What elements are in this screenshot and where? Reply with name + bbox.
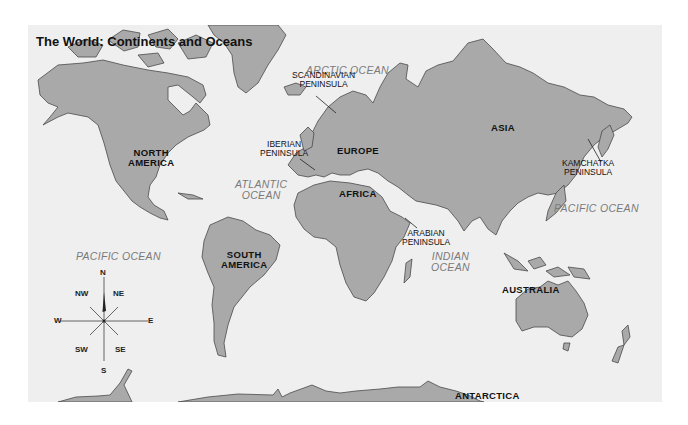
label-atlantic-ocean: ATLANTIC OCEAN [235, 179, 287, 201]
new-zealand-shape [612, 325, 630, 363]
label-asia: ASIA [491, 123, 515, 133]
label-antarctica: ANTARCTICA [455, 391, 520, 401]
label-kamchatka-peninsula: KAMCHATKA PENINSULA [562, 159, 614, 177]
africa-shape [294, 181, 410, 301]
antarctica-shape [58, 369, 484, 402]
label-pacific-ocean-east: PACIFIC OCEAN [554, 203, 639, 214]
compass-rose [60, 277, 148, 361]
compass-label-ne: NE [113, 289, 124, 298]
tasmania-shape [563, 343, 570, 351]
label-south-america-line2: AMERICA [221, 260, 267, 270]
label-pacific-ocean-west: PACIFIC OCEAN [76, 251, 161, 262]
label-arabian-peninsula: ARABIAN PENINSULA [402, 229, 450, 247]
label-indian-line2: OCEAN [431, 262, 470, 273]
compass-label-s: S [101, 366, 106, 375]
compass-label-nw: NW [75, 289, 88, 298]
label-scandinavian-peninsula: SCANDINAVIAN PENINSULA [292, 71, 355, 89]
caribbean-shape [178, 193, 203, 199]
compass-label-e: E [148, 316, 153, 325]
compass-label-w: W [54, 316, 62, 325]
label-atlantic-line2: OCEAN [235, 190, 287, 201]
label-australia: AUSTRALIA [502, 285, 560, 295]
label-north-america-line2: AMERICA [128, 158, 174, 168]
map-title: The World: Continents and Oceans [36, 34, 252, 49]
label-kamchatka-line2: PENINSULA [562, 168, 614, 177]
indonesia-shape [504, 253, 590, 279]
label-indian-ocean: INDIAN OCEAN [431, 251, 470, 273]
label-europe: EUROPE [337, 146, 379, 156]
label-africa: AFRICA [339, 189, 377, 199]
label-arabian-line2: PENINSULA [402, 238, 450, 247]
label-north-america: NORTH AMERICA [128, 148, 174, 168]
label-south-america: SOUTH AMERICA [221, 250, 267, 270]
compass-label-sw: SW [75, 345, 88, 354]
north-arrow-icon [103, 292, 107, 312]
world-map: The World: Continents and Oceans ARCTIC … [28, 25, 662, 402]
compass-label-se: SE [115, 345, 126, 354]
label-iberian-peninsula: IBERIAN PENINSULA [260, 140, 308, 158]
label-iberian-line2: PENINSULA [260, 149, 308, 158]
south-america-shape [202, 217, 280, 357]
madagascar-shape [404, 259, 412, 283]
compass-label-n: N [100, 268, 106, 277]
label-scandinavian-line2: PENINSULA [292, 80, 355, 89]
